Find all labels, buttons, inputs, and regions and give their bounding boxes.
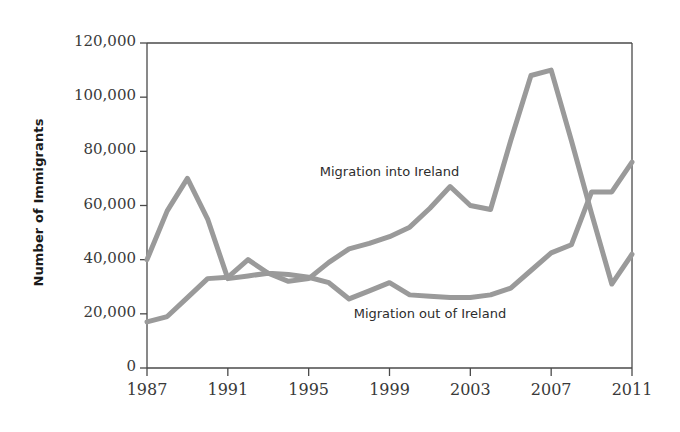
series-annotation-label: Migration into Ireland	[320, 164, 459, 179]
y-tick-label: 80,000	[52, 140, 136, 158]
y-tick-label: 40,000	[52, 249, 136, 267]
y-tick-label: 60,000	[52, 195, 136, 213]
series-lines	[147, 70, 632, 322]
x-tick-label: 2011	[592, 380, 672, 399]
series-annotation-label: Migration out of Ireland	[354, 306, 506, 321]
y-axis-title: Number of Immigrants	[31, 103, 46, 303]
y-tick-label: 0	[52, 357, 136, 375]
series-line	[147, 162, 632, 322]
x-tick-label: 2003	[430, 380, 510, 399]
x-tick-label: 2007	[511, 380, 591, 399]
x-tick-label: 1999	[350, 380, 430, 399]
y-tick-label: 20,000	[52, 303, 136, 321]
x-tick-label: 1991	[188, 380, 268, 399]
x-tick-label: 1995	[269, 380, 349, 399]
y-tick-label: 120,000	[52, 32, 136, 50]
y-tick-label: 100,000	[52, 86, 136, 104]
x-tick-label: 1987	[107, 380, 187, 399]
immigration-line-chart: Number of Immigrants 020,00040,00060,000…	[0, 0, 680, 432]
